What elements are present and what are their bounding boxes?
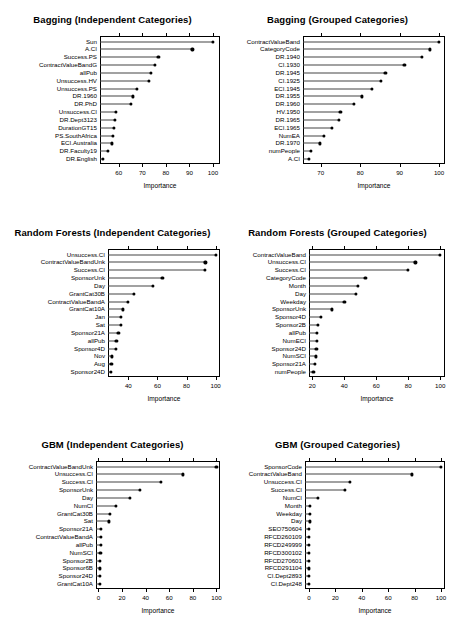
value-line: [309, 262, 415, 263]
x-tick-top: [312, 246, 313, 249]
x-tick-top: [157, 246, 158, 249]
x-tick: [193, 589, 194, 592]
category-label: NumCI: [74, 503, 93, 509]
x-tick-top: [362, 458, 363, 461]
category-label: ContractValueBandUnk: [29, 464, 93, 470]
category-label: DurationGT15: [58, 125, 97, 131]
x-tick-top: [119, 33, 120, 36]
chart-panel: GBM (Independent Categories)ContractValu…: [0, 425, 225, 639]
category-label: DR.1960: [73, 93, 97, 99]
category-label: Day: [82, 495, 93, 501]
x-tick-label: 100: [210, 382, 220, 389]
x-tick-label: 100: [434, 169, 444, 176]
category-label: Unsuccess.CI: [55, 471, 93, 477]
x-tick-top: [213, 33, 214, 36]
category-label: ECI.Australia: [61, 140, 97, 146]
category-label: Unsuccess.PS: [57, 85, 97, 91]
value-line: [108, 301, 128, 302]
category-label: Day: [291, 518, 302, 524]
x-tick: [400, 164, 401, 167]
value-line: [309, 285, 358, 286]
chart-title: GBM (Independent Categories): [0, 439, 225, 450]
value-line: [303, 65, 404, 66]
plot-frame: [309, 249, 445, 377]
value-line: [309, 293, 356, 294]
plot-area: SponsorCodeContractValueBandUnsuccess.CI…: [305, 461, 445, 589]
category-label: Success.CI: [74, 267, 105, 273]
value-line: [100, 41, 213, 42]
x-tick: [376, 377, 377, 380]
x-axis-title: Importance: [303, 182, 445, 189]
category-label: DR.1955: [276, 93, 300, 99]
x-tick-label: 60: [154, 382, 161, 389]
x-axis-title: Importance: [100, 182, 220, 189]
category-label: GrantCat30B: [69, 291, 105, 297]
category-label: Sat: [96, 322, 105, 328]
category-label: Month: [285, 503, 302, 509]
x-tick: [98, 589, 99, 592]
category-label: PS.SouthAfrica: [55, 132, 97, 138]
value-line: [309, 278, 365, 279]
x-tick: [122, 589, 123, 592]
category-label: A.CI: [85, 46, 97, 52]
x-tick: [216, 589, 217, 592]
category-label: ContractValueBand: [249, 471, 302, 477]
category-label: Unsuccess.CI: [268, 259, 306, 265]
category-label: Sponsor24D: [272, 345, 306, 351]
x-tick-top: [128, 246, 129, 249]
x-tick-top: [408, 246, 409, 249]
chart-panel: Random Forests (Grouped Categories)Contr…: [225, 213, 450, 425]
category-label: NumECI: [283, 338, 306, 344]
x-tick-label: 100: [436, 594, 446, 601]
category-label: DR.Faculty19: [60, 148, 97, 154]
value-line: [108, 262, 205, 263]
category-label: DR.PhD: [74, 101, 97, 107]
x-tick-top: [169, 458, 170, 461]
x-tick-label: 80: [411, 594, 418, 601]
value-line: [96, 505, 116, 506]
category-label: allPub: [88, 338, 105, 344]
category-label: DR.1970: [276, 140, 300, 146]
x-tick: [440, 377, 441, 380]
plot-area: ContractValueBandUnsuccess.CISuccess.CIC…: [309, 249, 445, 377]
x-tick-label: 100: [208, 169, 218, 176]
value-line: [303, 49, 430, 50]
plot-frame: [100, 36, 220, 164]
chart-panel: GBM (Grouped Categories)SponsorCodeContr…: [225, 425, 450, 639]
value-line: [305, 482, 350, 483]
x-tick-label: 40: [125, 382, 132, 389]
category-label: Sponsor2B: [62, 557, 93, 563]
category-label: Jan: [95, 314, 105, 320]
value-line: [108, 270, 205, 271]
category-label: SEO750604: [268, 526, 302, 532]
plot-area: Unsuccess.CIContractValueBandUnkSuccess.…: [108, 249, 220, 377]
x-tick-top: [439, 33, 440, 36]
x-tick: [309, 589, 310, 592]
category-label: SponsorCode: [264, 464, 302, 470]
x-tick-top: [400, 33, 401, 36]
x-tick-top: [189, 33, 190, 36]
category-label: DR.1940: [276, 54, 300, 60]
x-tick: [157, 377, 158, 380]
x-tick-label: 40: [142, 594, 149, 601]
value-line: [100, 88, 137, 89]
x-tick-label: 20: [332, 594, 339, 601]
chart-title: Bagging (Independent Categories): [0, 14, 225, 25]
x-tick-top: [321, 33, 322, 36]
chart-title: GBM (Grouped Categories): [225, 439, 450, 450]
value-line: [305, 490, 345, 491]
category-label: CI.1925: [278, 78, 300, 84]
category-label: RFCD249999: [264, 542, 302, 548]
category-label: Sponsor21A: [59, 526, 93, 532]
value-line: [108, 278, 162, 279]
category-label: RFCD270601: [264, 557, 302, 563]
chart-title: Random Forests (Grouped Categories): [225, 227, 450, 238]
x-tick-top: [309, 458, 310, 461]
x-tick-top: [415, 458, 416, 461]
category-label: Sponsor21A: [71, 330, 105, 336]
value-line: [96, 497, 130, 498]
category-label: NumSCI: [70, 550, 93, 556]
x-tick: [408, 377, 409, 380]
x-tick-top: [187, 246, 188, 249]
category-label: ContractValueBandG: [39, 62, 97, 68]
